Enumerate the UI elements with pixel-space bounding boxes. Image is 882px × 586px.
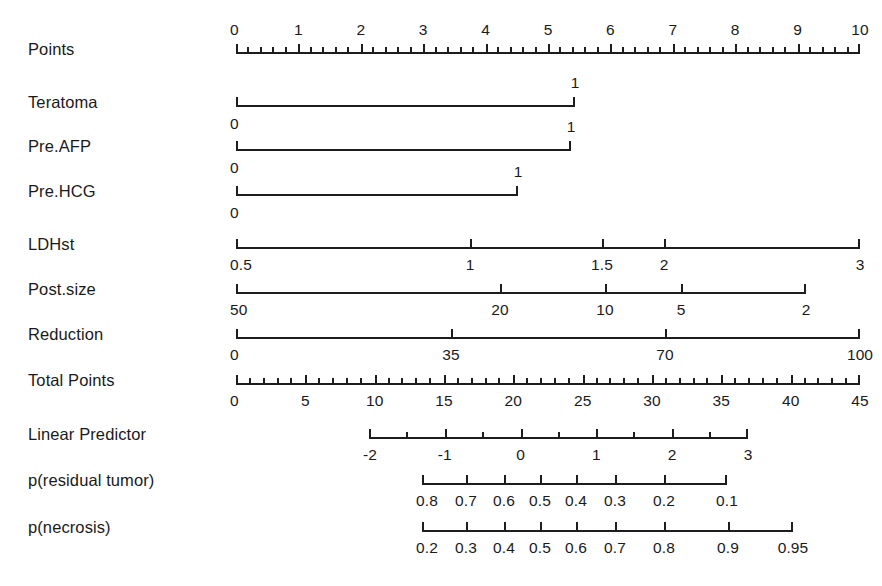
axis-minor-tick — [497, 47, 499, 52]
axis-minor-tick — [596, 378, 598, 383]
axis-minor-tick — [572, 47, 574, 52]
axis-minor-tick — [347, 47, 349, 52]
axis-tick-label: 1 — [466, 256, 475, 274]
axis-major-tick — [298, 44, 300, 53]
axis-minor-tick — [747, 47, 749, 52]
axis-major-tick — [305, 375, 307, 384]
axis-minor-tick — [776, 378, 778, 383]
axis-major-tick — [540, 475, 542, 484]
axis-minor-tick — [498, 378, 500, 383]
axis-minor-tick — [559, 47, 561, 52]
axis-major-tick — [576, 475, 578, 484]
axis-tick-label: 0.3 — [604, 492, 626, 510]
axis-minor-tick — [822, 47, 824, 52]
axis-minor-tick — [510, 47, 512, 52]
row-label-reduction: Reduction — [28, 325, 103, 344]
axis-tick-label: 20 — [505, 392, 522, 410]
axis-tick-label: 0.4 — [493, 539, 515, 557]
axis-minor-tick — [684, 47, 686, 52]
nomogram-figure: Points012345678910Teratoma01Pre.AFP01Pre… — [0, 0, 882, 586]
axis-minor-tick — [568, 378, 570, 383]
row-label-pre-hcg: Pre.HCG — [28, 182, 96, 201]
axis-tick-label: 2 — [356, 21, 365, 39]
axis-tick-label: 0.8 — [416, 492, 438, 510]
axis-major-tick — [791, 375, 793, 384]
axis-minor-tick — [633, 432, 635, 437]
axis-major-tick — [665, 329, 667, 338]
axis-tick-label: 25 — [574, 392, 591, 410]
axis-minor-tick — [397, 47, 399, 52]
axis-major-tick — [610, 44, 612, 53]
axis-tick-label: -2 — [363, 446, 377, 464]
axis-minor-tick — [647, 47, 649, 52]
axis-minor-tick — [817, 378, 819, 383]
axis-major-tick — [576, 522, 578, 531]
axis-minor-tick — [609, 378, 611, 383]
axis-tick-label: 0 — [230, 21, 239, 39]
axis-tick-label: 0.3 — [455, 539, 477, 557]
row-label-p-residual-tumor: p(residual tumor) — [28, 471, 154, 490]
axis-tick-label: 5 — [677, 301, 686, 319]
axis-tick-label: 0.1 — [716, 492, 738, 510]
axis-minor-tick — [447, 47, 449, 52]
axis-minor-tick — [310, 47, 312, 52]
axis-minor-tick — [622, 47, 624, 52]
axis-minor-tick — [429, 378, 431, 383]
axis-tick-label: 0.95 — [778, 539, 809, 557]
axis-major-tick — [721, 375, 723, 384]
axis-tick-label: 2 — [802, 301, 811, 319]
axis-minor-tick — [809, 47, 811, 52]
row-label-ldhst: LDHst — [28, 235, 74, 254]
axis-end-cap — [422, 475, 424, 485]
axis-minor-tick — [372, 47, 374, 52]
axis-end-cap — [569, 141, 571, 151]
axis-minor-tick — [759, 47, 761, 52]
axis-major-tick — [548, 44, 550, 53]
axis-tick-label: 10 — [851, 21, 868, 39]
axis-tick-label: 0.5 — [529, 539, 551, 557]
axis-major-tick — [521, 429, 523, 438]
axis-tick-label: 0.5 — [230, 256, 252, 274]
axis-minor-tick — [659, 47, 661, 52]
axis-major-tick — [504, 475, 506, 484]
axis-minor-tick — [272, 47, 274, 52]
axis-tick-label: 10 — [366, 392, 383, 410]
axis-tick-label: 20 — [491, 301, 508, 319]
axis-tick-label: 0 — [230, 159, 239, 177]
axis-minor-tick — [734, 378, 736, 383]
axis-end-cap — [858, 329, 860, 339]
axis-major-tick — [444, 375, 446, 384]
axis-minor-tick — [410, 47, 412, 52]
axis-minor-tick — [360, 378, 362, 383]
axis-minor-tick — [332, 378, 334, 383]
axis-major-tick — [673, 44, 675, 53]
axis-minor-tick — [597, 47, 599, 52]
axis-tick-label: 0.2 — [653, 492, 675, 510]
axis-tick-label: 0 — [516, 446, 525, 464]
axis-tick-label: 35 — [442, 346, 459, 364]
axis-end-cap — [858, 44, 860, 54]
axis-end-cap — [236, 239, 238, 249]
axis-major-tick — [540, 522, 542, 531]
axis-end-cap — [516, 186, 518, 196]
axis-tick-label: 2 — [668, 446, 677, 464]
axis-tick-label: 0.4 — [565, 492, 587, 510]
axis-line — [236, 247, 860, 249]
axis-minor-tick — [285, 47, 287, 52]
axis-line — [236, 105, 575, 107]
axis-minor-tick — [540, 378, 542, 383]
axis-tick-label: 0 — [230, 115, 239, 133]
axis-minor-tick — [584, 47, 586, 52]
axis-major-tick — [664, 239, 666, 248]
axis-minor-tick — [457, 378, 459, 383]
axis-end-cap — [746, 429, 748, 439]
row-label-p-necrosis: p(necrosis) — [28, 518, 111, 537]
row-label-points: Points — [28, 40, 74, 59]
axis-minor-tick — [706, 378, 708, 383]
axis-major-tick — [445, 429, 447, 438]
axis-tick-label: 3 — [856, 256, 865, 274]
axis-major-tick — [583, 375, 585, 384]
axis-end-cap — [236, 284, 238, 294]
row-label-pre-afp: Pre.AFP — [28, 137, 91, 156]
axis-tick-label: 0.6 — [565, 539, 587, 557]
